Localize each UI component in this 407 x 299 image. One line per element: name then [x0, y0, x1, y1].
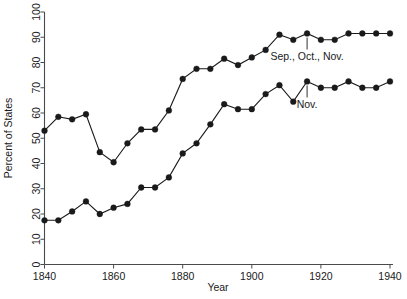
- data-point: [332, 85, 338, 91]
- data-point: [290, 37, 296, 43]
- data-point: [359, 85, 365, 91]
- data-point: [69, 116, 75, 122]
- y-tick-label: 0: [30, 261, 42, 267]
- y-tick-label: 90: [30, 31, 42, 43]
- data-point: [83, 198, 89, 204]
- data-point: [304, 31, 310, 37]
- data-point: [290, 99, 296, 105]
- y-tick-label: 10: [30, 233, 42, 245]
- line-chart: 0102030405060708090100 18401860188019001…: [0, 0, 407, 299]
- data-point: [359, 31, 365, 37]
- data-point: [180, 76, 186, 82]
- data-point: [125, 140, 131, 146]
- data-point: [277, 32, 283, 38]
- x-tick-label: 1900: [240, 270, 264, 282]
- data-point: [207, 66, 213, 72]
- y-tick-label: 20: [30, 208, 42, 220]
- y-axis-title: Percent of States: [2, 98, 14, 179]
- x-tick-label: 1860: [102, 270, 126, 282]
- y-tick-label: 70: [30, 82, 42, 94]
- data-point: [277, 82, 283, 88]
- data-point: [166, 108, 172, 114]
- data-point: [263, 47, 269, 53]
- x-axis-title: Year: [207, 281, 229, 293]
- y-tick-label: 60: [30, 107, 42, 119]
- data-point: [387, 79, 393, 85]
- data-point: [83, 111, 89, 117]
- series-2: [42, 79, 393, 224]
- data-point: [69, 209, 75, 215]
- data-point: [221, 56, 227, 62]
- annotation-label: Sep., Oct., Nov.: [270, 50, 343, 62]
- data-point: [152, 127, 158, 133]
- chart-container: 0102030405060708090100 18401860188019001…: [0, 0, 407, 299]
- data-point: [152, 185, 158, 191]
- data-point: [166, 174, 172, 180]
- data-point: [221, 101, 227, 107]
- y-tick-label: 40: [30, 158, 42, 170]
- data-point: [194, 140, 200, 146]
- data-point: [318, 85, 324, 91]
- data-point: [55, 114, 61, 120]
- data-point: [138, 127, 144, 133]
- data-point: [373, 85, 379, 91]
- series-line: [45, 81, 391, 220]
- data-point: [235, 106, 241, 112]
- data-point: [387, 31, 393, 37]
- data-point: [304, 79, 310, 85]
- x-tick-label: 1840: [33, 270, 57, 282]
- x-tick-label: 1880: [171, 270, 195, 282]
- data-point: [180, 151, 186, 157]
- data-point: [125, 201, 131, 207]
- data-point: [207, 121, 213, 127]
- data-point: [138, 185, 144, 191]
- data-point: [97, 211, 103, 217]
- y-tick-label: 50: [30, 132, 42, 144]
- data-point: [111, 159, 117, 165]
- data-point: [194, 66, 200, 72]
- y-tick-label: 80: [30, 57, 42, 69]
- y-tick-label: 100: [30, 3, 42, 21]
- data-point: [346, 79, 352, 85]
- x-tick-label: 1940: [378, 270, 402, 282]
- y-axis-ticks: 0102030405060708090100: [30, 3, 44, 267]
- data-point: [249, 55, 255, 61]
- data-point: [97, 149, 103, 155]
- data-point: [263, 91, 269, 97]
- data-point: [332, 37, 338, 43]
- data-point: [346, 31, 352, 37]
- data-point: [235, 62, 241, 68]
- x-tick-label: 1920: [309, 270, 333, 282]
- data-point: [42, 128, 48, 134]
- data-point: [111, 205, 117, 211]
- x-axis-ticks: 184018601880190019201940: [33, 265, 402, 282]
- data-point: [55, 217, 61, 223]
- y-tick-label: 30: [30, 183, 42, 195]
- data-point: [249, 106, 255, 112]
- data-point: [42, 217, 48, 223]
- annotation-label: Nov.: [297, 98, 318, 110]
- annotations-group: Sep., Oct., Nov.Nov.: [270, 37, 343, 110]
- data-point: [373, 31, 379, 37]
- data-point: [318, 37, 324, 43]
